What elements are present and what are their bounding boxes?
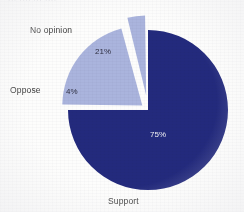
slice-value-oppose: 4% (66, 88, 78, 96)
pie-chart: ··· ···· ··· ···· No opinion Oppose Supp… (0, 0, 244, 212)
slice-label-support: Support (108, 197, 139, 206)
slice-label-no-opinion: No opinion (30, 26, 72, 35)
slice-label-oppose: Oppose (10, 86, 41, 95)
slice-value-support: 75% (150, 131, 166, 139)
slice-value-no-opinion: 21% (95, 48, 111, 56)
